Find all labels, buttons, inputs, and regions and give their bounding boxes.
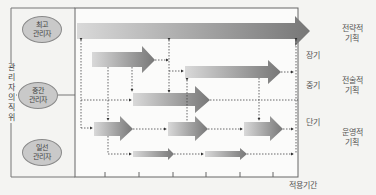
manager-middle: 중간 관리자 xyxy=(18,82,58,109)
horizon-medium: 중기 xyxy=(300,81,326,91)
planning-operational: 운영적 기획 xyxy=(333,128,371,148)
manager-top: 최고 관리자 xyxy=(22,16,62,43)
manager-first-line: 일선 관리자 xyxy=(22,139,62,166)
y-axis-label: 관리자의 직위 xyxy=(6,63,16,123)
x-axis-label: 적용기간 xyxy=(278,181,328,191)
horizon-short: 단기 xyxy=(300,118,326,128)
planning-tactical: 전술적 기획 xyxy=(333,76,371,96)
planning-strategic: 전략적 기획 xyxy=(333,24,371,44)
horizon-long: 장기 xyxy=(300,51,326,61)
